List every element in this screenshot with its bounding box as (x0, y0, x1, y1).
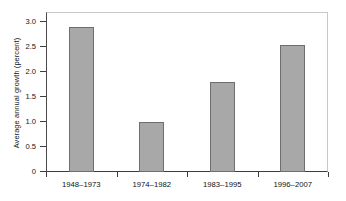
x-axis-category-label: 1948–1973 (46, 180, 117, 190)
y-axis-tick-label: 1.0 (0, 118, 36, 126)
y-axis-tick-label: 1.5 (0, 93, 36, 101)
y-axis-tick (40, 46, 46, 47)
y-axis-tick-label: 2.0 (0, 68, 36, 76)
y-axis-tick (40, 96, 46, 97)
bar (210, 82, 235, 172)
y-axis-tick-label: 0 (0, 168, 36, 176)
x-axis-tick (328, 172, 329, 177)
bar (69, 27, 94, 172)
x-axis-tick (46, 172, 47, 177)
x-axis-category-label: 1996–2007 (258, 180, 329, 190)
bar (139, 122, 164, 172)
y-axis-tick (40, 71, 46, 72)
y-axis-tick (40, 21, 46, 22)
y-axis-tick-label: 2.5 (0, 43, 36, 51)
x-axis-tick (117, 172, 118, 177)
bar-chart-figure: Average annual growth (percent) 00.51.01… (0, 0, 346, 201)
x-axis-category-label: 1974–1982 (117, 180, 188, 190)
bar (280, 45, 305, 173)
y-axis-tick-label: 3.0 (0, 18, 36, 26)
y-axis-tick-label: 0.5 (0, 143, 36, 151)
x-axis-tick (187, 172, 188, 177)
x-axis-category-label: 1983–1995 (187, 180, 258, 190)
y-axis-tick (40, 121, 46, 122)
y-axis-tick (40, 146, 46, 147)
x-axis-tick (258, 172, 259, 177)
